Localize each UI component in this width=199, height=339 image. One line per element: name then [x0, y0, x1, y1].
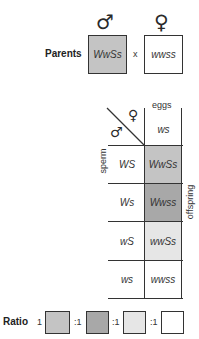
corner-male-symbol: ♂ [110, 124, 123, 140]
sperm-label: sperm [98, 146, 108, 176]
sperm-gamete: WS [110, 146, 144, 183]
ratio-value: 1 [37, 317, 42, 327]
sperm-gamete: Ws [110, 184, 144, 221]
ratio-swatch [86, 311, 109, 334]
offspring-cell: Wwss [145, 184, 181, 221]
offspring-genotype: wwSs [150, 236, 176, 247]
egg-gamete: ws [145, 113, 182, 145]
sperm-gamete: ws [110, 261, 144, 298]
ratio-label: Ratio [3, 316, 28, 327]
ratio-swatch [161, 311, 184, 334]
ratio-swatch [123, 311, 146, 334]
sperm-gamete: wS [110, 222, 144, 260]
parents-label: Parents [45, 48, 82, 59]
ratio-value: :1 [150, 317, 158, 327]
grid-hline-4 [108, 298, 183, 299]
female-symbol: ♀ [154, 12, 169, 32]
offspring-genotype: Wwss [150, 197, 177, 208]
grid-vline-right [181, 108, 182, 299]
offspring-cell: wwSs [145, 222, 181, 260]
offspring-genotype: WwSs [149, 159, 177, 170]
offspring-cell: WwSs [145, 146, 181, 183]
offspring-label: offspring [185, 179, 195, 225]
offspring-genotype: wwss [151, 274, 175, 285]
offspring-cell: wwss [145, 261, 181, 298]
ratio-value: :1 [74, 317, 82, 327]
male-genotype: WwSs [93, 49, 121, 60]
male-parent-box: WwSs [88, 35, 127, 74]
male-symbol: ♂ [96, 12, 114, 32]
female-genotype: wwss [151, 49, 175, 60]
eggs-label: eggs [152, 100, 172, 110]
ratio-value: :1 [112, 317, 120, 327]
cross-symbol: x [133, 49, 138, 59]
female-parent-box: wwss [144, 35, 183, 74]
ratio-swatch [45, 311, 70, 334]
corner-female-symbol: ♀ [128, 107, 138, 123]
